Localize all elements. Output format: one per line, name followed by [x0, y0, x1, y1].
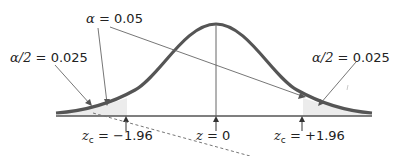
alpha-pointer-left	[98, 28, 107, 103]
right-tail-pointer	[320, 62, 356, 104]
bell-curve	[56, 24, 372, 113]
arrow-up-icon	[123, 116, 129, 122]
alpha-half-symbol: α/2	[312, 50, 333, 65]
z-subscript: c	[89, 135, 94, 145]
alpha-symbol: α	[86, 11, 95, 26]
z-critical-left-label: zc = −1.96	[82, 129, 153, 145]
z-variable: z	[274, 128, 281, 143]
equals-sign: =	[207, 128, 218, 143]
alpha-half-symbol: α/2	[10, 50, 31, 65]
equals-sign: =	[290, 128, 301, 143]
equals-sign: =	[99, 11, 110, 26]
arrow-up-icon	[299, 116, 305, 122]
z-variable: z	[196, 128, 203, 143]
z-critical-right-label: zc = +1.96	[274, 129, 345, 145]
z-center-label: z = 0	[196, 129, 230, 142]
left-tail-pointer	[55, 65, 90, 104]
normal-curve-diagram: α = 0.05 α/2 = 0.025 α/2 = 0.025 zc = −1…	[0, 0, 393, 156]
equals-sign: =	[338, 50, 349, 65]
equals-sign: =	[36, 50, 47, 65]
z-right-value: +1.96	[305, 128, 345, 143]
z-center-value: 0	[222, 128, 230, 143]
faint-mark	[347, 85, 348, 90]
arrow-up-icon	[213, 116, 219, 122]
alpha-value: 0.05	[114, 11, 143, 26]
z-subscript: c	[281, 135, 286, 145]
right-tail-label: α/2 = 0.025	[312, 51, 390, 64]
right-tail-value: 0.025	[353, 50, 390, 65]
left-tail-label: α/2 = 0.025	[10, 51, 88, 64]
z-left-value: −1.96	[113, 128, 153, 143]
alpha-label: α = 0.05	[86, 12, 143, 25]
z-variable: z	[82, 128, 89, 143]
equals-sign: =	[98, 128, 109, 143]
left-tail-value: 0.025	[51, 50, 88, 65]
